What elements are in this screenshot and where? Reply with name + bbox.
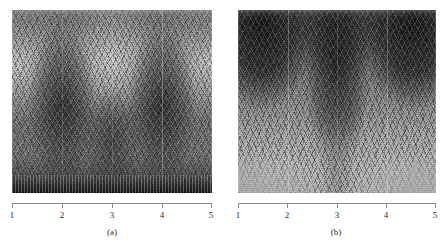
panel-a-tick-2 [62,203,63,208]
panel-b-tick-label-5: 5 [425,210,445,221]
panel-b: 1 2 3 4 5 (b) [224,0,448,247]
panel-b-tick-3 [337,203,338,208]
panel-b-tick-label-3: 3 [327,210,347,221]
panel-a-tick-5 [211,203,212,208]
panel-b-tick-2 [287,203,288,208]
panel-b-tick-5 [435,203,436,208]
panel-b-tick-4 [386,203,387,208]
panel-a: 1 2 3 4 5 (a) [0,0,224,247]
panel-b-tick-1 [238,203,239,208]
panel-b-tick-label-2: 2 [277,210,297,221]
panel-a-tick-3 [112,203,113,208]
panel-a-tick-label-5: 5 [201,210,221,221]
plot-a-grain [12,10,212,193]
figure-root: 1 2 3 4 5 (a) [0,0,448,247]
plot-a-raster [12,10,212,193]
panel-a-caption: (a) [0,226,224,238]
panel-a-tick-1 [12,203,13,208]
panel-b-caption: (b) [224,226,448,238]
panel-a-tick-label-3: 3 [102,210,122,221]
plot-b-raster [238,10,436,193]
panel-a-tick-4 [162,203,163,208]
panel-b-tick-label-1: 1 [228,210,248,221]
panel-a-tick-label-4: 4 [152,210,172,221]
plot-b-grain [238,10,436,193]
panel-b-tick-label-4: 4 [376,210,396,221]
panel-a-tick-label-2: 2 [52,210,72,221]
panel-a-tick-label-1: 1 [2,210,22,221]
